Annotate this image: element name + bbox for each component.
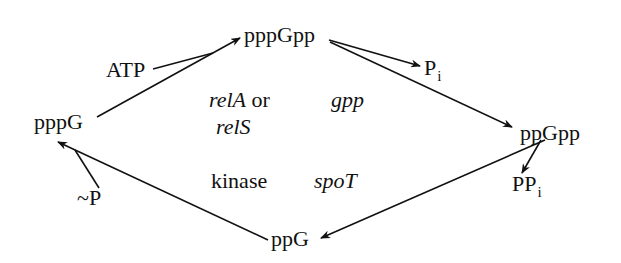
node-pppG: pppG	[34, 111, 83, 133]
arrow-atp-input	[153, 53, 213, 69]
label-pi: Pi	[424, 57, 441, 79]
node-pppGpp: pppGpp	[244, 24, 315, 46]
diagram-canvas: pppGpp ppGpp ppG pppG ATP Pi PPi ~P relA…	[0, 0, 621, 263]
node-ppG: ppG	[271, 228, 309, 250]
enzyme-kinase: kinase	[211, 170, 267, 192]
or-text: or	[246, 87, 270, 112]
label-tilde-p: ~P	[77, 187, 101, 209]
label-pi-subscript: i	[437, 68, 441, 84]
enzyme-relS: relS	[216, 116, 251, 138]
enzyme-relA-or: relA or	[209, 89, 270, 111]
enzyme-gpp: gpp	[331, 89, 364, 111]
label-atp: ATP	[106, 59, 145, 81]
label-ppi: PPi	[512, 173, 542, 195]
arrow-pppGpp-to-ppGpp	[330, 42, 512, 127]
enzyme-relA: relA	[209, 87, 246, 112]
label-ppi-main: PP	[512, 171, 536, 196]
node-ppGpp: ppGpp	[520, 122, 580, 144]
enzyme-spoT: spoT	[314, 170, 357, 192]
label-pi-main: P	[424, 55, 436, 80]
label-ppi-subscript: i	[537, 184, 541, 200]
